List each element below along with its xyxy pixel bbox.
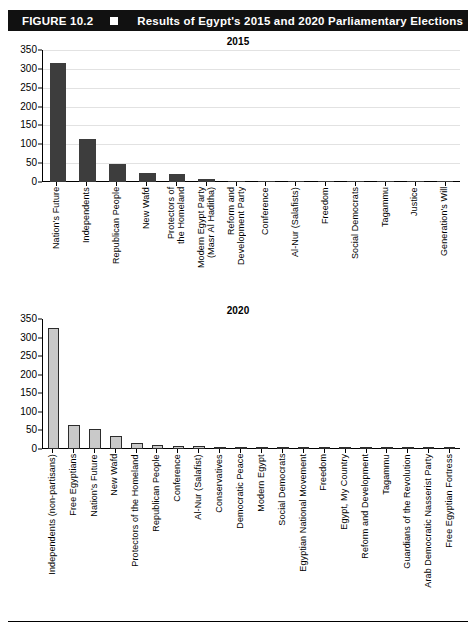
x-axis-label: Free Egyptian Fortress	[445, 454, 455, 588]
x-label-cell: Conference	[167, 454, 188, 588]
x-tick	[161, 182, 191, 186]
x-axis-label: Arab Democratic Nasserist Party	[424, 454, 434, 588]
bar-cell	[251, 50, 281, 182]
x-axis-label: Democratic Peace	[236, 454, 246, 588]
x-axis-label: Al-Nur (Salafists)	[291, 187, 301, 287]
bar-cell	[43, 50, 73, 182]
x-label-cell: Freedom	[314, 454, 335, 588]
x-label-cell: Independents	[72, 187, 102, 287]
y-tick-label: 100	[20, 407, 37, 417]
chart-2020-x-labels: Independents (non-partisans)Free Egyptia…	[42, 454, 460, 588]
x-tick	[311, 182, 341, 186]
bar-cell	[439, 319, 460, 449]
chart-2015-x-labels: Nation's FutureIndependentsRepublican Pe…	[42, 187, 460, 287]
x-tick	[341, 182, 371, 186]
x-tick	[132, 182, 162, 186]
bar-cell	[356, 319, 377, 449]
x-label-cell: Egypt, My Country	[335, 454, 356, 588]
x-tick	[42, 449, 63, 453]
x-label-cell: Arab Democratic Nasserist Party	[418, 454, 439, 588]
x-tick-mark	[355, 182, 356, 186]
x-tick	[42, 182, 72, 186]
y-tick-label: 250	[20, 351, 37, 361]
x-axis-label: Tagammu	[381, 187, 391, 287]
x-label-cell: Tagammu	[377, 454, 398, 588]
x-tick-mark	[428, 449, 429, 453]
x-tick	[251, 182, 281, 186]
x-axis-label: Justice	[410, 187, 420, 287]
bar-cell	[281, 50, 311, 182]
chart-2020-x-ticks	[42, 449, 460, 453]
x-label-cell: Freedom	[311, 187, 341, 287]
x-tick	[102, 182, 132, 186]
figure-number: FIGURE 10.2	[22, 15, 93, 27]
x-tick-mark	[386, 449, 387, 453]
x-tick-mark	[198, 449, 199, 453]
x-label-cell: Modern Egypt Party (Masr Al Haditha)	[191, 187, 221, 287]
x-axis-label: Protectors of the Homeland	[131, 454, 141, 588]
bar-cell	[106, 319, 127, 449]
chart-2015-x-ticks	[42, 182, 460, 186]
x-label-cell: Al-Nur (Salafist)	[188, 454, 209, 588]
x-axis-label: Egyptian National Movement	[299, 454, 309, 588]
bar-3	[109, 164, 126, 182]
chart-2020-title: 2020	[8, 305, 468, 316]
y-tick-label: 350	[20, 45, 37, 55]
x-tick-mark	[52, 449, 53, 453]
figure-header: FIGURE 10.2 Results of Egypt's 2015 and …	[8, 10, 468, 31]
bar-cell	[293, 319, 314, 449]
x-tick-mark	[324, 449, 325, 453]
bar-2	[68, 425, 80, 449]
bar-cell	[43, 319, 64, 449]
bar-cell	[132, 50, 162, 182]
x-axis-label: Egypt, My Country	[340, 454, 350, 588]
bar-cell	[210, 319, 231, 449]
x-tick	[209, 449, 230, 453]
bar-cell	[168, 319, 189, 449]
y-tick-label: 350	[20, 314, 37, 324]
x-tick	[188, 449, 209, 453]
chart-2015-title: 2015	[8, 36, 468, 47]
x-tick	[72, 182, 102, 186]
x-tick-mark	[449, 449, 450, 453]
x-tick	[251, 449, 272, 453]
x-label-cell: Nation's Future	[42, 187, 72, 287]
x-tick-mark	[73, 449, 74, 453]
x-axis-label: Modern Egypt Party (Masr Al Haditha)	[197, 187, 216, 285]
bar-cell	[147, 319, 168, 449]
x-tick-mark	[445, 182, 446, 186]
x-tick-mark	[146, 182, 147, 186]
x-axis-label: Social Democrats	[351, 187, 361, 287]
bar-cell	[314, 319, 335, 449]
figure-title: Results of Egypt's 2015 and 2020 Parliam…	[137, 15, 463, 27]
footer-rule	[8, 621, 468, 622]
bar-cell	[430, 50, 460, 182]
y-tick-label: 300	[20, 333, 37, 343]
x-axis-label: Reform and Development Party	[227, 187, 246, 287]
bar-cell	[371, 50, 401, 182]
bar-cell	[231, 319, 252, 449]
x-tick-mark	[236, 182, 237, 186]
x-axis-label: Independents (non-partisans)	[48, 454, 58, 588]
x-tick-mark	[156, 449, 157, 453]
x-axis-label: Nation's Future	[90, 454, 100, 588]
y-tick-label: 300	[20, 64, 37, 74]
bar-cell	[192, 50, 222, 182]
bar-cell	[341, 50, 371, 182]
x-tick	[377, 449, 398, 453]
x-tick-mark	[407, 449, 408, 453]
x-tick	[314, 449, 335, 453]
chart-2020-plot-area	[42, 319, 460, 449]
x-label-cell: Reform and Development Party	[221, 187, 251, 287]
y-tick-label: 50	[26, 425, 37, 435]
x-tick	[335, 449, 356, 453]
bar-1	[48, 328, 60, 449]
x-label-cell: Protectors of the Homeland	[126, 454, 147, 588]
x-tick-mark	[56, 182, 57, 186]
chart-2015-bars	[43, 50, 460, 182]
x-tick-mark	[176, 182, 177, 186]
x-axis-label: Freedom	[321, 187, 331, 287]
x-label-cell: Reform and Development	[356, 454, 377, 588]
x-label-cell: Tagammu	[370, 187, 400, 287]
x-tick	[191, 182, 221, 186]
